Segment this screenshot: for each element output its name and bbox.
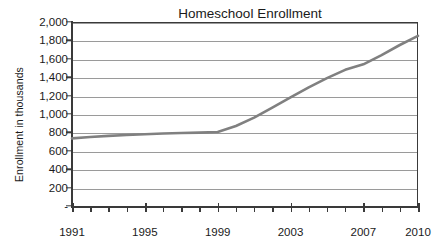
chart-title: Homeschool Enrollment [160,6,340,21]
x-axis-tick-mark [309,206,310,212]
y-axis-tick-label: 600 [20,145,68,157]
x-axis-tick-mark [90,206,91,212]
y-axis-tick-mark [66,187,73,188]
x-axis-tick-mark [127,206,128,212]
gridline-horizontal [72,60,417,61]
y-axis-tick-mark [66,132,73,133]
x-axis-tick-label: 2003 [278,226,304,238]
x-axis-tick-mark [254,206,255,212]
x-axis-tick-mark [382,206,383,212]
y-axis-tick-label: - [20,200,68,212]
x-axis-tick-mark [345,206,346,212]
x-axis-tick-label: 2010 [405,226,431,238]
y-axis-tick-mark [66,58,73,59]
gridline-horizontal [72,152,417,153]
y-axis-tick-label: 1,000 [20,108,68,120]
gridline-horizontal [72,133,417,134]
x-axis-tick-mark [145,203,147,212]
x-axis-tick-mark [272,206,273,212]
x-axis-tick-label: 2007 [351,226,377,238]
y-axis-tick-label: 1,200 [20,90,68,102]
x-axis-tick-mark [418,203,420,212]
x-axis-tick-mark [218,203,220,212]
y-axis-tick-mark [66,40,73,41]
x-axis-tick-mark [108,206,109,212]
gridline-horizontal [72,170,417,171]
gridline-horizontal [72,41,417,42]
x-axis-tick-label: 1991 [59,226,85,238]
chart-container: Enrollment in thousands -2004006008001,0… [0,0,432,249]
gridline-horizontal [72,97,417,98]
x-axis-tick-mark [327,206,328,212]
y-axis-tick-label: 2,000 [20,16,68,28]
y-axis-tick-label: 1,600 [20,53,68,65]
y-axis-tick-label: 1,800 [20,34,68,46]
y-axis-tick-label: 200 [20,182,68,194]
x-axis-tick-label: 1995 [132,226,158,238]
x-axis-tick-mark [363,203,365,212]
y-axis-tick-label: 400 [20,163,68,175]
y-axis-tick-mark [66,21,73,22]
y-axis-tick-labels: -2004006008001,0001,2001,4001,6001,8002,… [18,0,68,249]
y-axis-tick-label: 800 [20,126,68,138]
y-axis-tick-mark [66,168,73,169]
x-axis-tick-mark [163,206,164,212]
gridline-horizontal [72,189,417,190]
y-axis-tick-mark [66,150,73,151]
x-axis-tick-label: 1999 [205,226,231,238]
y-axis-tick-mark [66,113,73,114]
x-axis-tick-mark [199,206,200,212]
x-axis-tick-mark [236,206,237,212]
y-axis-tick-mark [66,76,73,77]
x-axis-tick-mark [181,206,182,212]
x-axis-tick-mark [291,203,293,212]
y-axis-tick-mark [66,95,73,96]
gridline-horizontal [72,23,417,24]
x-axis-line [71,206,419,208]
x-axis-tick-mark [400,206,401,212]
x-axis-tick-mark [72,203,74,212]
gridline-horizontal [72,78,417,79]
plot-area [72,22,418,206]
y-axis-tick-label: 1,400 [20,71,68,83]
gridline-horizontal [72,115,417,116]
